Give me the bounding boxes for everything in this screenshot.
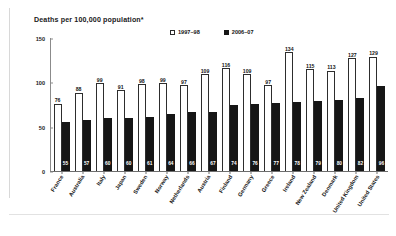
x-axis-label-cell: Austria bbox=[198, 174, 219, 232]
x-axis-category-label: Italy bbox=[95, 174, 106, 187]
x-axis-category-label: France bbox=[49, 174, 64, 193]
bar-1997-98: 115 bbox=[306, 69, 314, 171]
x-axis-category-label: Norway bbox=[154, 174, 170, 194]
bar-value-label: 99 bbox=[160, 77, 166, 83]
bar-1997-98: 97 bbox=[180, 85, 188, 171]
x-axis-category-label: Japan bbox=[114, 174, 128, 191]
bar-value-label: 74 bbox=[231, 161, 236, 166]
bar-value-label: 78 bbox=[295, 161, 300, 166]
bar-2006-07: 60 bbox=[125, 118, 133, 171]
bar-group: 10967 bbox=[198, 38, 219, 171]
chart-figure: Deaths per 100,000 population* 1997–98 2… bbox=[0, 0, 396, 236]
bar-2006-07: 96 bbox=[377, 86, 385, 171]
bar-2006-07: 80 bbox=[335, 100, 343, 171]
x-axis-category-label: Greece bbox=[260, 174, 275, 193]
bar-value-label: 77 bbox=[273, 161, 278, 166]
bar-1997-98: 129 bbox=[369, 57, 377, 171]
bar-value-label: 88 bbox=[76, 86, 82, 92]
bar-value-label: 113 bbox=[327, 64, 335, 70]
x-axis-label-cell: New Zealand bbox=[304, 174, 325, 232]
bar-value-label: 109 bbox=[201, 68, 210, 74]
x-axis-category-labels: FranceAustraliaItalyJapanSwedenNorwayNet… bbox=[50, 174, 388, 232]
bar-1997-98: 113 bbox=[327, 71, 335, 171]
x-axis-label-cell: Germany bbox=[240, 174, 261, 232]
bar-value-label: 67 bbox=[210, 161, 215, 166]
x-axis-category-label: Ireland bbox=[282, 174, 297, 193]
bar-value-label: 60 bbox=[105, 161, 110, 166]
x-axis-label-cell: Finland bbox=[219, 174, 240, 232]
x-axis-category-label: Finland bbox=[217, 174, 233, 194]
bar-2006-07: 55 bbox=[62, 122, 70, 171]
chart-title: Deaths per 100,000 population* bbox=[34, 16, 144, 24]
bar-2006-07: 77 bbox=[272, 103, 280, 171]
bar-value-label: 79 bbox=[316, 161, 321, 166]
bar-value-label: 76 bbox=[252, 161, 257, 166]
x-axis-label-cell: Australia bbox=[71, 174, 92, 232]
bar-group: 9766 bbox=[177, 38, 198, 171]
bar-2006-07: 64 bbox=[167, 114, 175, 171]
bar-2006-07: 57 bbox=[83, 120, 91, 171]
x-axis bbox=[50, 171, 388, 172]
bar-group: 10976 bbox=[241, 38, 262, 171]
bar-1997-98: 98 bbox=[138, 84, 146, 171]
bar-1997-98: 134 bbox=[285, 52, 293, 171]
bar-2006-07: 78 bbox=[293, 102, 301, 171]
bar-group: 11579 bbox=[304, 38, 325, 171]
bar-value-label: 115 bbox=[306, 63, 314, 69]
bar-value-label: 61 bbox=[147, 161, 152, 166]
bar-group: 12782 bbox=[346, 38, 367, 171]
legend-label-2006-07: 2006–07 bbox=[232, 29, 254, 35]
y-axis-tick-mark bbox=[50, 172, 53, 173]
bar-value-label: 82 bbox=[358, 161, 363, 166]
bar-value-label: 134 bbox=[285, 46, 294, 52]
bar-group: 12996 bbox=[367, 38, 388, 171]
bar-1997-98: 97 bbox=[264, 85, 272, 171]
bar-1997-98: 99 bbox=[159, 83, 167, 171]
bar-value-label: 109 bbox=[243, 68, 252, 74]
bar-1997-98: 109 bbox=[243, 74, 251, 171]
bar-value-label: 76 bbox=[55, 97, 61, 103]
bar-2006-07: 61 bbox=[146, 117, 154, 171]
x-axis-label-cell: Netherlands bbox=[177, 174, 198, 232]
bar-group: 9964 bbox=[156, 38, 177, 171]
y-axis-tick-label: 150 bbox=[36, 36, 50, 42]
x-axis-category-label: Austria bbox=[197, 174, 212, 194]
bar-2006-07: 67 bbox=[209, 112, 217, 171]
chart-legend: 1997–98 2006–07 bbox=[170, 29, 254, 35]
bar-value-label: 60 bbox=[126, 161, 131, 166]
figure-border-left bbox=[9, 8, 10, 198]
bar-group: 9861 bbox=[135, 38, 156, 171]
bar-value-label: 116 bbox=[222, 62, 230, 68]
bar-value-label: 97 bbox=[181, 79, 187, 85]
bar-group: 7655 bbox=[51, 38, 72, 171]
bar-1997-98: 116 bbox=[222, 68, 230, 171]
bar-group: 9777 bbox=[262, 38, 283, 171]
bar-2006-07: 66 bbox=[188, 112, 196, 171]
bar-1997-98: 76 bbox=[54, 104, 62, 171]
legend-item-1997-98: 1997–98 bbox=[170, 29, 200, 35]
bar-2006-07: 74 bbox=[230, 105, 238, 171]
bar-group: 8857 bbox=[72, 38, 93, 171]
x-axis-label-cell: United States bbox=[367, 174, 388, 232]
y-axis-tick-label: 50 bbox=[39, 125, 50, 131]
legend-item-2006-07: 2006–07 bbox=[224, 29, 254, 35]
bar-group: 9960 bbox=[93, 38, 114, 171]
bar-value-label: 99 bbox=[97, 77, 103, 83]
bar-value-label: 129 bbox=[369, 50, 378, 56]
x-axis-category-label: Sweden bbox=[132, 174, 148, 195]
bar-value-label: 80 bbox=[337, 161, 342, 166]
bar-value-label: 55 bbox=[63, 161, 68, 166]
bar-value-label: 98 bbox=[139, 78, 145, 84]
bar-value-label: 127 bbox=[348, 52, 357, 58]
x-axis-label-cell: Sweden bbox=[135, 174, 156, 232]
bar-value-label: 96 bbox=[379, 161, 384, 166]
bar-group: 13478 bbox=[283, 38, 304, 171]
bar-2006-07: 60 bbox=[104, 118, 112, 171]
plot-area: 050100150 765588579960916098619964976610… bbox=[50, 38, 388, 172]
legend-label-1997-98: 1997–98 bbox=[178, 29, 200, 35]
open-square-icon bbox=[170, 30, 175, 35]
bar-1997-98: 91 bbox=[117, 90, 125, 171]
x-axis-label-cell: Japan bbox=[113, 174, 134, 232]
bar-value-label: 64 bbox=[168, 161, 173, 166]
bar-2006-07: 79 bbox=[314, 101, 322, 171]
